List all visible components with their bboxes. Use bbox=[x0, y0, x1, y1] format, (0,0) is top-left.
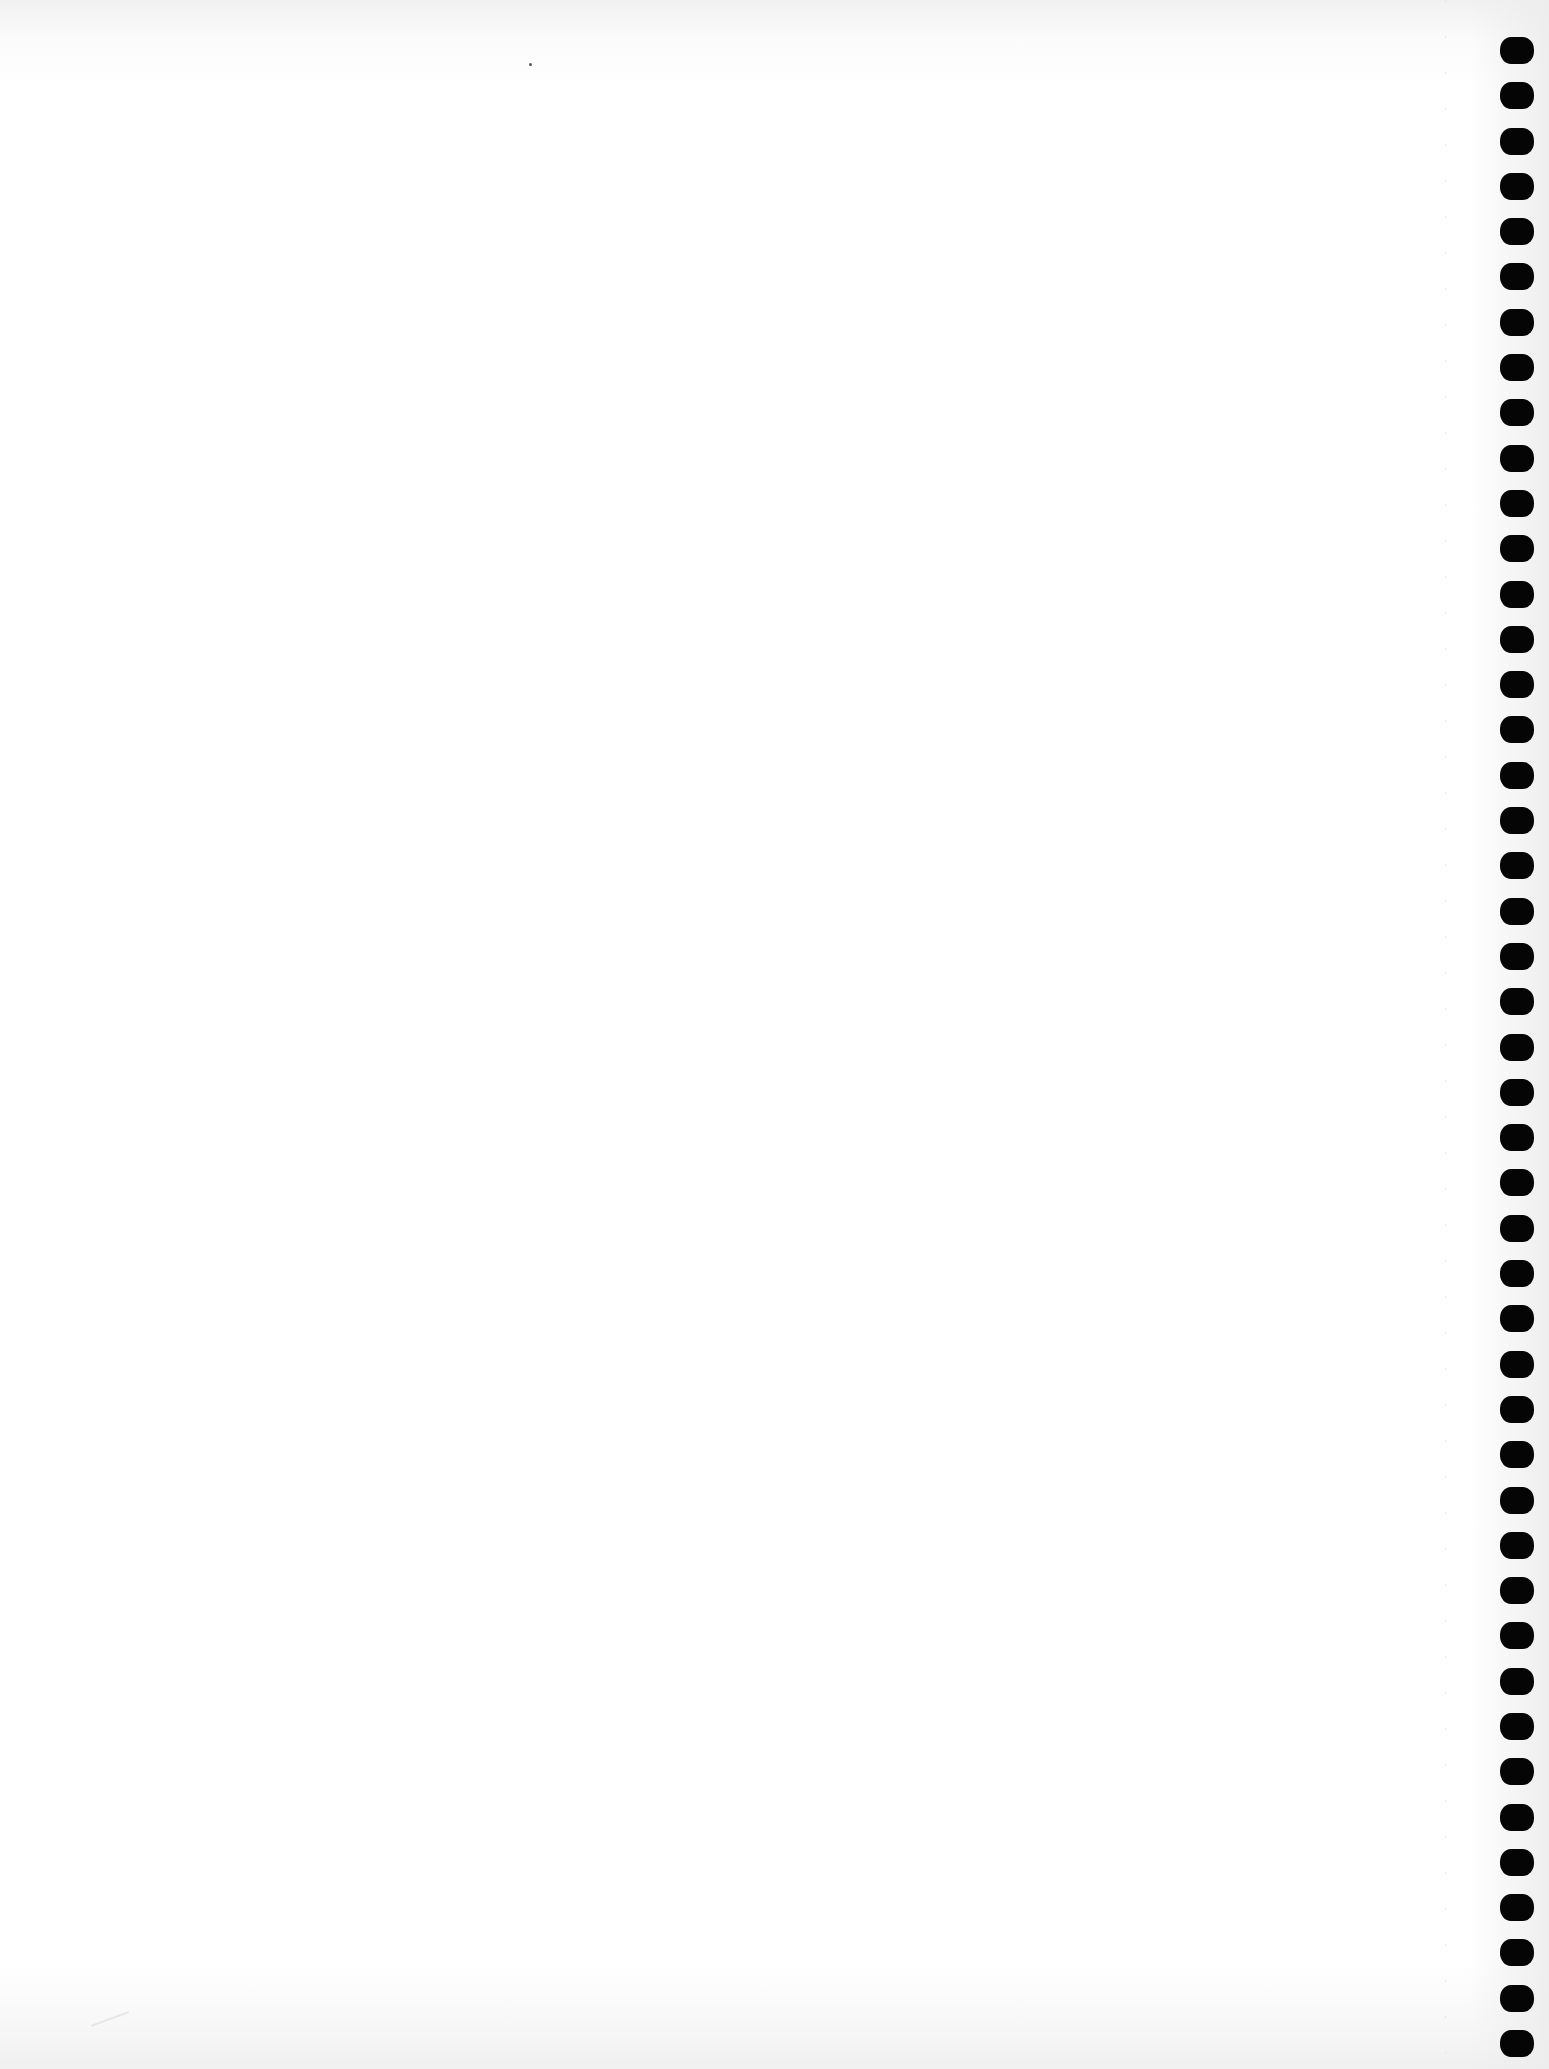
binding-hole-icon bbox=[1500, 1985, 1534, 2012]
binding-hole-icon bbox=[1500, 1260, 1534, 1287]
binding-hole-icon bbox=[1500, 898, 1534, 925]
binding-hole-icon bbox=[1500, 128, 1534, 155]
binding-hole-icon bbox=[1500, 1124, 1534, 1151]
binding-hole-icon bbox=[1500, 1351, 1534, 1378]
binding-hole-icon bbox=[1500, 1713, 1534, 1740]
binding-hole-icon bbox=[1500, 399, 1534, 426]
binding-hole-icon bbox=[1500, 1577, 1534, 1604]
binding-hole-icon bbox=[1500, 988, 1534, 1015]
binding-hole-icon bbox=[1500, 82, 1534, 109]
binding-hole-icon bbox=[1500, 1487, 1534, 1514]
binding-hole-icon bbox=[1500, 1939, 1534, 1966]
binding-hole-icon bbox=[1500, 535, 1534, 562]
binding-hole-icon bbox=[1500, 671, 1534, 698]
binding-hole-icon bbox=[1500, 1215, 1534, 1242]
binding-hole-icon bbox=[1500, 445, 1534, 472]
binding-hole-icon bbox=[1500, 354, 1534, 381]
binding-hole-icon bbox=[1500, 490, 1534, 517]
binding-hole-icon bbox=[1500, 263, 1534, 290]
binding-hole-icon bbox=[1500, 1079, 1534, 1106]
binding-hole-icon bbox=[1500, 1804, 1534, 1831]
binding-hole-icon bbox=[1500, 626, 1534, 653]
binding-hole-icon bbox=[1500, 1894, 1534, 1921]
binding-hole-icon bbox=[1500, 37, 1534, 64]
paper-speck bbox=[529, 63, 532, 66]
binding-hole-icon bbox=[1500, 716, 1534, 743]
binding-hole-icon bbox=[1500, 309, 1534, 336]
binding-hole-icon bbox=[1500, 1668, 1534, 1695]
binding-hole-icon bbox=[1500, 762, 1534, 789]
binding-hole-icon bbox=[1500, 2030, 1534, 2057]
binding-hole-icon bbox=[1500, 1758, 1534, 1785]
binding-hole-icon bbox=[1500, 581, 1534, 608]
binding-hole-icon bbox=[1500, 1622, 1534, 1649]
binding-hole-icon bbox=[1500, 852, 1534, 879]
paper-scuff bbox=[91, 2011, 129, 2027]
binding-holes bbox=[1500, 37, 1534, 2069]
binding-hole-icon bbox=[1500, 1532, 1534, 1559]
binding-hole-icon bbox=[1500, 1034, 1534, 1061]
perforation-line bbox=[1445, 0, 1446, 2069]
binding-hole-icon bbox=[1500, 218, 1534, 245]
binding-hole-icon bbox=[1500, 1441, 1534, 1468]
binding-hole-icon bbox=[1500, 1396, 1534, 1423]
binding-hole-icon bbox=[1500, 173, 1534, 200]
binding-hole-icon bbox=[1500, 943, 1534, 970]
binding-hole-icon bbox=[1500, 1849, 1534, 1876]
binding-hole-icon bbox=[1500, 1305, 1534, 1332]
binding-hole-icon bbox=[1500, 1169, 1534, 1196]
binding-hole-icon bbox=[1500, 807, 1534, 834]
notebook-page bbox=[0, 0, 1549, 2069]
